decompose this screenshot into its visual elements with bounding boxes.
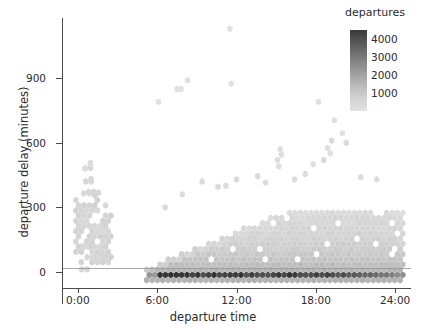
hexbin-cell <box>81 190 86 197</box>
hexbin-cell <box>223 182 228 189</box>
y-axis-title: departure delay (minutes) <box>17 52 31 272</box>
hexbin-cell <box>275 157 280 164</box>
x-tick-mark <box>395 288 396 293</box>
x-tick-label: 6:00 <box>145 294 169 306</box>
hexbin-cell <box>340 130 345 137</box>
legend: departures 1000200030004000 <box>344 6 426 110</box>
hexbin-cell <box>328 150 333 157</box>
hexbin-cell <box>316 99 321 106</box>
hexbin-cell <box>103 202 108 209</box>
zero-reference-line <box>62 268 411 269</box>
x-tick-mark <box>316 288 317 293</box>
hexbin-cell <box>303 171 308 178</box>
legend-tick-label: 3000 <box>371 51 398 63</box>
hexbin-cell <box>344 139 349 146</box>
x-tick-label: 12:00 <box>221 294 251 306</box>
hexbin-cell <box>185 77 190 84</box>
hexbin-cell <box>321 157 326 164</box>
x-tick-mark <box>78 288 79 293</box>
hexbin-cell <box>83 178 88 185</box>
hexbin-cell <box>325 145 330 152</box>
legend-title: departures <box>345 6 405 19</box>
hexbin-cell <box>374 176 379 183</box>
x-tick-label: 18:00 <box>301 294 331 306</box>
x-tick-mark <box>237 288 238 293</box>
y-tick-mark <box>56 207 62 208</box>
hexbin-cell <box>215 183 220 190</box>
hexbin-cell <box>180 191 185 198</box>
hexbin-cell <box>199 178 204 185</box>
y-tick-mark <box>56 272 62 273</box>
hexbin-cell <box>234 176 239 183</box>
hexbin-cell <box>162 204 167 211</box>
x-tick-label: 24:00 <box>380 294 410 306</box>
hexbin-cell <box>255 173 260 180</box>
hexbin-cell <box>84 254 89 261</box>
hexbin-cell <box>79 266 84 273</box>
hexbin-cell <box>292 176 297 183</box>
hexbin-cell <box>329 137 334 144</box>
y-tick-mark <box>56 143 62 144</box>
hexbin-cell <box>79 259 84 266</box>
x-tick-mark <box>157 288 158 293</box>
chart-figure: 0300600900 0:006:0012:0018:0024:00 depar… <box>0 0 426 330</box>
hexbin-cell <box>227 25 232 32</box>
y-axis-line <box>62 18 63 304</box>
hexbin-cell <box>263 179 268 186</box>
hexbin-cell <box>310 161 315 168</box>
hexbin-cell <box>229 80 234 87</box>
y-tick-mark <box>56 78 62 79</box>
legend-tick-label: 1000 <box>371 87 398 99</box>
x-tick-label: 0:00 <box>66 294 90 306</box>
hexbin-cell <box>276 163 281 170</box>
hexbin-cell <box>332 117 337 124</box>
hexbin-cell <box>358 174 363 181</box>
x-axis-title: departure time <box>0 310 426 324</box>
hexbin-cell <box>156 99 161 106</box>
hexbin-cell <box>178 86 183 93</box>
hexbin-cell <box>85 266 90 273</box>
legend-tick-label: 2000 <box>371 69 398 81</box>
legend-colorbar <box>350 30 367 111</box>
legend-tick-label: 4000 <box>371 33 398 45</box>
